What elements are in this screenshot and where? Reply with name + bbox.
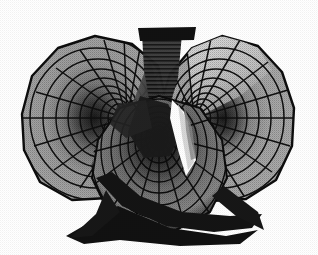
surface-plot [0, 0, 318, 255]
halftone-grain-overlay [0, 0, 318, 255]
figure-root [0, 0, 318, 255]
